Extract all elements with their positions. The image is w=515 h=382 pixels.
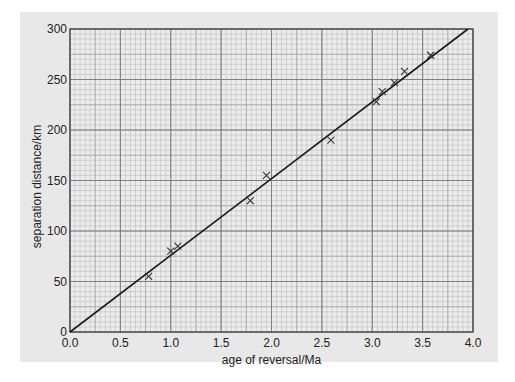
y-tick-label: 250 <box>47 73 67 87</box>
x-axis-ticks: 0.00.51.01.52.02.53.03.54.0 <box>62 336 482 350</box>
y-tick-label: 0 <box>60 325 67 339</box>
x-tick-label: 2.5 <box>314 336 331 350</box>
x-tick-label: 4.0 <box>465 336 482 350</box>
y-tick-label: 150 <box>47 174 67 188</box>
y-tick-label: 300 <box>47 22 67 36</box>
x-tick-label: 3.0 <box>364 336 381 350</box>
y-tick-label: 50 <box>54 275 68 289</box>
y-tick-label: 100 <box>47 224 67 238</box>
x-tick-label: 2.0 <box>263 336 280 350</box>
x-tick-label: 1.0 <box>162 336 179 350</box>
x-tick-label: 3.5 <box>414 336 431 350</box>
y-tick-label: 200 <box>47 123 67 137</box>
y-axis-label: separation distance/km <box>30 125 44 248</box>
y-axis-ticks: 050100150200250300 <box>47 22 67 339</box>
x-tick-label: 1.5 <box>213 336 230 350</box>
x-tick-label: 0.5 <box>112 336 129 350</box>
x-axis-label: age of reversal/Ma <box>222 353 322 367</box>
scatter-chart: 0.00.51.01.52.02.53.03.54.0 050100150200… <box>0 0 515 382</box>
